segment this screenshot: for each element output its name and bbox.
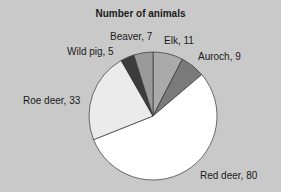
label-roe-deer: Roe deer, 33 <box>23 95 80 106</box>
label-beaver: Beaver, 7 <box>110 31 152 42</box>
label-auroch: Auroch, 9 <box>198 51 241 62</box>
label-red-deer: Red deer, 80 <box>200 170 257 181</box>
label-wild-pig: Wild pig, 5 <box>67 46 114 57</box>
label-elk: Elk, 11 <box>164 35 194 46</box>
